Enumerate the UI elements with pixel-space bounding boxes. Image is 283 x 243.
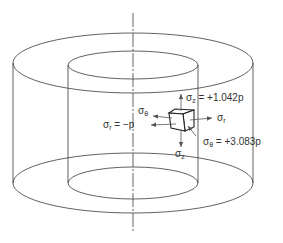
- label-sigma-z-top: σz = +1.042p: [186, 92, 244, 104]
- label-sigma-r-right: σr: [217, 112, 226, 124]
- label-sigma-theta-right: σθ = +3.083p: [203, 136, 261, 148]
- label-sigma-theta-left: σθ: [138, 105, 148, 117]
- cube-front-face: [169, 113, 185, 131]
- label-sigma-r-left: σr = −p: [103, 119, 135, 131]
- cylinder-diagram: σz = +1.042p σθ σr = −p σr σθ = +3.083p …: [0, 0, 283, 243]
- label-sigma-z-bottom: σz: [175, 148, 185, 160]
